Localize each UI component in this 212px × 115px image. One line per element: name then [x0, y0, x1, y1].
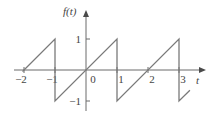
y-axis-label: f(t) [63, 5, 77, 18]
x-axis-label: t [196, 74, 200, 86]
y-axis-arrow-icon [83, 10, 89, 17]
y-tick-label: 1 [76, 33, 82, 45]
x-tick-label: 0 [90, 73, 96, 85]
x-tick-label: 2 [149, 73, 155, 85]
x-axis-arrow-icon [199, 67, 206, 73]
x-tick-label: −2 [15, 73, 27, 85]
x-tick-label: 1 [118, 73, 124, 85]
sawtooth-chart: t f(t) −2−101231−1 [0, 0, 212, 115]
x-tick-label: −1 [46, 73, 58, 85]
y-tick-label: −1 [69, 95, 81, 107]
axes: t f(t) [14, 5, 206, 111]
x-tick-label: 3 [180, 73, 186, 85]
